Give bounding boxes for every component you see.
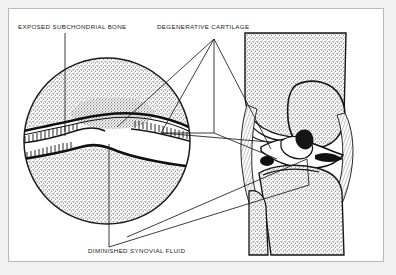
figure-canvas: EXPOSED SUBCHONDRIAL BONE DEGENERATIVE C… bbox=[0, 0, 396, 275]
illustration-frame: EXPOSED SUBCHONDRIAL BONE DEGENERATIVE C… bbox=[8, 8, 384, 262]
figure-caption bbox=[0, 263, 396, 275]
tibia bbox=[259, 165, 344, 255]
magnified-joint-detail bbox=[23, 49, 193, 229]
lateral-knee-cross-section bbox=[241, 33, 353, 255]
label-diminished-synovial-fluid: DIMINISHED SYNOVIAL FLUID bbox=[88, 248, 185, 254]
label-degenerative-cartilage: DEGENERATIVE CARTILAGE bbox=[157, 24, 249, 30]
label-exposed-subchondrial-bone: EXPOSED SUBCHONDRIAL BONE bbox=[18, 24, 127, 30]
medical-illustration bbox=[9, 9, 385, 263]
infrapatellar-fat-shadow bbox=[260, 156, 274, 166]
